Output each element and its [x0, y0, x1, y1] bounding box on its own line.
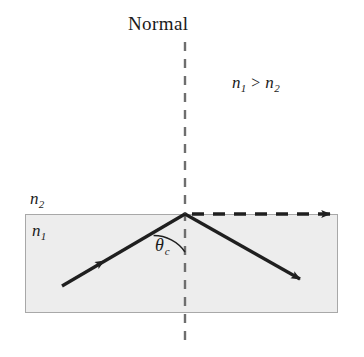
refractive-index-inequality: n1>n2: [232, 74, 280, 94]
inequality-operator: >: [251, 74, 260, 91]
medium-upper-label: n2: [30, 190, 44, 210]
inequality-left-subscript: 1: [241, 82, 247, 94]
medium-upper-symbol: n: [30, 189, 39, 208]
medium-lower-subscript: 1: [41, 230, 47, 242]
optics-diagram: Normal n1>n2 n2 n1 θc: [0, 0, 364, 357]
inequality-right-symbol: n: [265, 73, 274, 92]
diagram-canvas: [0, 0, 364, 357]
inequality-left-symbol: n: [232, 73, 241, 92]
medium-rectangle: [26, 215, 338, 313]
medium-lower-label: n1: [32, 222, 46, 242]
medium-lower-symbol: n: [32, 221, 41, 240]
critical-angle-symbol: θ: [155, 235, 164, 255]
medium-upper-subscript: 2: [39, 198, 45, 210]
inequality-right-subscript: 2: [274, 82, 280, 94]
critical-angle-subscript: c: [165, 245, 170, 257]
critical-angle-label: θc: [155, 236, 170, 257]
normal-label: Normal: [128, 14, 188, 33]
